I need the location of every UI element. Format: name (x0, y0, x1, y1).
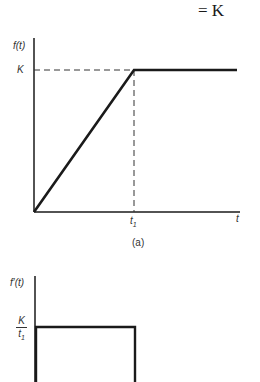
figure-b-k-over-t1-label: K t1 (16, 316, 27, 341)
figure-a-x-axis-label: t (236, 213, 239, 224)
figure-a-t1-label: t1 (130, 215, 137, 228)
figure-a-y-axis-label: f(t) (13, 40, 25, 51)
figure-a-k-label: K (17, 64, 24, 75)
figure-b-pulse-curve (36, 327, 135, 382)
figure-a-plot (0, 0, 260, 382)
denominator-subscript: 1 (21, 334, 25, 341)
figure-b-y-axis-label: f′(t) (10, 277, 24, 288)
figure-a-ramp-curve (34, 70, 237, 212)
t1-subscript: 1 (133, 221, 137, 228)
figure-a-caption: (a) (132, 237, 144, 248)
fraction-numerator: K (18, 316, 25, 326)
fraction-denominator: t1 (18, 329, 25, 341)
